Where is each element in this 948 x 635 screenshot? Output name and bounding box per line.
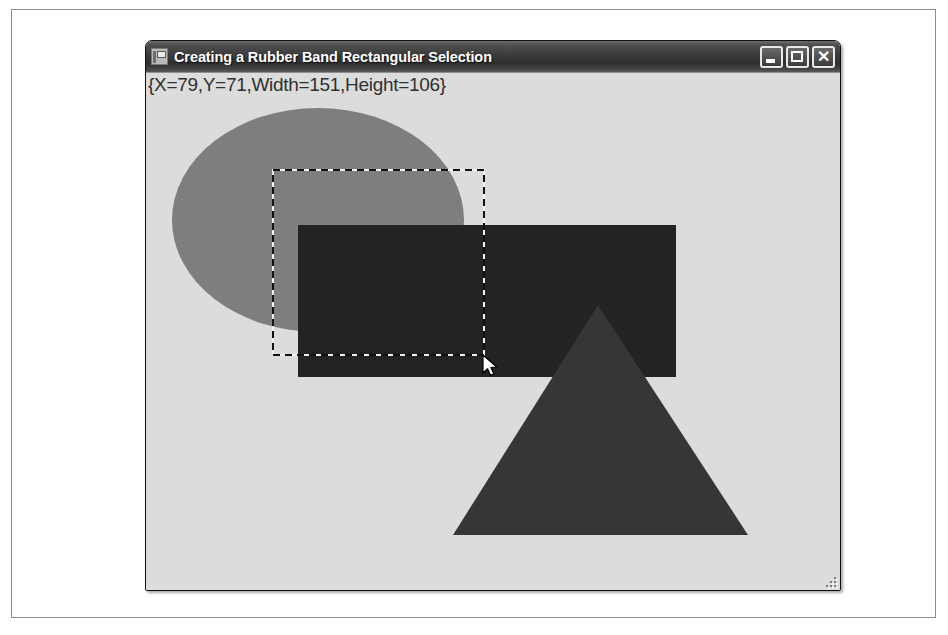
close-icon: ✕ [814, 48, 833, 66]
figure-frame: Creating a Rubber Band Rectangular Selec… [11, 9, 936, 618]
maximize-icon [791, 51, 803, 62]
title-bar[interactable]: Creating a Rubber Band Rectangular Selec… [146, 41, 840, 72]
shapes-svg [146, 73, 840, 591]
minimize-icon [766, 59, 775, 63]
client-area[interactable]: {X=79,Y=71,Width=151,Height=106} [146, 72, 840, 591]
maximize-button[interactable] [786, 46, 809, 68]
window-controls: ✕ [760, 46, 835, 68]
application-icon [151, 48, 168, 65]
selection-status-text: {X=79,Y=71,Width=151,Height=106} [148, 74, 446, 96]
drawing-canvas[interactable] [146, 73, 840, 591]
window-title: Creating a Rubber Band Rectangular Selec… [174, 49, 760, 65]
application-window: Creating a Rubber Band Rectangular Selec… [145, 40, 841, 591]
resize-grip[interactable] [824, 575, 838, 589]
minimize-button[interactable] [760, 46, 783, 68]
close-button[interactable]: ✕ [812, 46, 835, 68]
